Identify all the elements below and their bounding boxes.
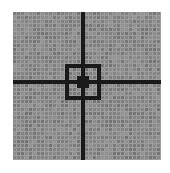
target-pattern-figure: A square gray pixel grid with a dark ver… bbox=[0, 0, 170, 173]
crosshair-reticle-canvas bbox=[0, 0, 170, 173]
